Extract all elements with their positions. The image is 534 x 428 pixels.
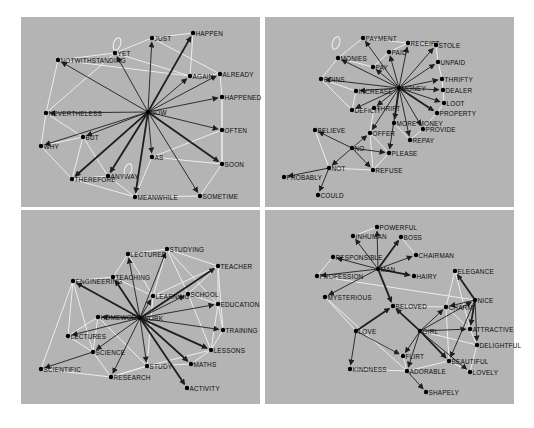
node-label-already: ALREADY — [223, 71, 255, 78]
node-label-work: WORK — [143, 315, 164, 322]
node-label-loot: LOOT — [447, 100, 465, 107]
node-label-inhuman: INHUMAN — [356, 233, 387, 240]
node-label-research: RESEARCH — [114, 374, 151, 381]
node-label-provide: PROVIDE — [426, 126, 456, 133]
node-label-shapely: SHAPELY — [429, 389, 460, 396]
node-label-nice: NICE — [478, 297, 494, 304]
node-label-soon: SOON — [225, 161, 245, 168]
node-label-sometime: SOMETIME — [203, 193, 239, 200]
node-label-increase: INCREASE — [359, 88, 393, 95]
node-label-adorable: ADORABLE — [410, 368, 446, 375]
node-label-offer: OFFER — [373, 130, 396, 137]
node-label-lectures: LECTURES — [71, 333, 107, 340]
node-label-powerful: POWERFUL — [380, 224, 418, 231]
node-label-thrift: THRIFT — [377, 105, 401, 112]
panel-now-adverbs-network: NOWJUSTHAPPENYETNOTWITHSTANDINGAGAINALRE… — [21, 17, 261, 207]
node-label-pay: PAY — [376, 64, 389, 71]
node-label-lecturer: LECTURER — [131, 251, 167, 258]
node-label-happen: HAPPEN — [196, 30, 224, 37]
node-label-happened: HAPPENED — [225, 94, 262, 101]
node-label-studying: STUDYING — [170, 246, 205, 253]
node-label-stole: STOLE — [439, 42, 461, 49]
node-label-could: COULD — [321, 192, 345, 199]
node-label-attractive: ATTRACTIVE — [473, 326, 514, 333]
panel-man-girl-network: MANGIRLPOWERFULINHUMANBOSSRESPONSIBLECHA… — [265, 210, 522, 404]
node-label-thrifty: THRIFTY — [445, 76, 474, 83]
node-label-nevertheless: NEVERTHELESS — [49, 110, 102, 117]
node-label-yet: YET — [118, 50, 131, 57]
node-label-unpaid: UNPAID — [441, 59, 466, 66]
node-label-again: AGAIN — [193, 73, 214, 80]
node-label-property: PROPERTY — [440, 110, 477, 117]
node-label-notwithstanding: NOTWITHSTANDING — [61, 57, 126, 64]
node-label-kindness: KINDNESS — [353, 366, 387, 373]
node-label-paid: PAID — [392, 49, 407, 56]
panel-work-education-network: WORKLECTURERSTUDYINGTEACHERENGINEERINGTE… — [21, 210, 260, 404]
node-label-often: OFTEN — [225, 127, 248, 134]
network-panels-svg: NOWJUSTHAPPENYETNOTWITHSTANDINGAGAINALRE… — [0, 0, 534, 428]
node-label-learning: LEARNING — [156, 293, 190, 300]
node-label-homework: HOMEWORK — [101, 314, 142, 321]
node-label-money: MONEY — [402, 85, 427, 92]
node-label-delightful: DELIGHTFUL — [480, 342, 522, 349]
node-label-payment: PAYMENT — [366, 35, 397, 42]
node-label-maths: MATHS — [194, 361, 217, 368]
node-label-teacher: TEACHER — [221, 263, 253, 270]
node-label-just: JUST — [155, 35, 172, 42]
node-label-chairman: CHAIRMAN — [419, 252, 455, 259]
node-label-please: PLEASE — [392, 150, 418, 157]
node-label-dealer: DEALER — [446, 87, 473, 94]
node-label-elegance: ELEGANCE — [458, 268, 494, 275]
node-label-meanwhile: MEANWHILE — [138, 194, 179, 201]
node-label-love: LOVE — [359, 328, 377, 335]
node-label-coins: COINS — [324, 76, 345, 83]
node-label-teaching: TEACHING — [116, 274, 151, 281]
node-label-refuse: REFUSE — [376, 167, 403, 174]
panel-money-network: MONEYPAYMENTRECEIPTSTOLEMONIESPAIDUNPAID… — [265, 17, 514, 207]
node-label-profession: PROFESSION — [320, 273, 364, 280]
node-label-girl: GIRL — [423, 328, 439, 335]
node-label-lessons: LESSONS — [214, 347, 246, 354]
node-label-now: NOW — [151, 109, 168, 116]
node-label-responsible: RESPONSIBLE — [336, 254, 383, 261]
node-label-training: TRAINING — [226, 327, 258, 334]
node-label-science: SCIENCE — [96, 349, 126, 356]
node-label-lovely: LOVELY — [473, 369, 499, 376]
word-association-figure: NOWJUSTHAPPENYETNOTWITHSTANDINGAGAINALRE… — [0, 0, 534, 428]
node-label-why: WHY — [44, 143, 60, 150]
node-label-mysterious: MYSTERIOUS — [328, 294, 372, 301]
node-label-man: MAN — [381, 266, 396, 273]
node-label-school: SCHOOL — [191, 291, 219, 298]
node-label-no: NO — [355, 145, 365, 152]
node-label-scientific: SCIENTIFIC — [44, 366, 82, 373]
node-label-monies: MONIES — [341, 55, 367, 62]
node-label-not: NOT — [332, 165, 346, 172]
node-label-beloved: BELOVED — [396, 303, 428, 310]
node-label-beautiful: BEAUTIFUL — [452, 358, 489, 365]
node-label-education: EDUCATION — [221, 301, 260, 308]
node-label-charm: CHARM — [449, 304, 473, 311]
node-label-probably: PROBABLY — [287, 174, 323, 181]
node-label-anyway: ANYWAY — [111, 173, 140, 180]
node-label-repay: REPAY — [413, 137, 435, 144]
node-label-as: AS — [155, 154, 164, 161]
node-label-believe: BELIEVE — [318, 127, 346, 134]
node-label-flirt: FLIRT — [406, 353, 425, 360]
node-label-but: BUT — [86, 134, 99, 141]
node-label-study: STUDY — [150, 363, 173, 370]
node-label-hairy: HAIRY — [417, 273, 438, 280]
node-label-activity: ACTIVITY — [190, 385, 221, 392]
node-label-boss: BOSS — [404, 234, 423, 241]
